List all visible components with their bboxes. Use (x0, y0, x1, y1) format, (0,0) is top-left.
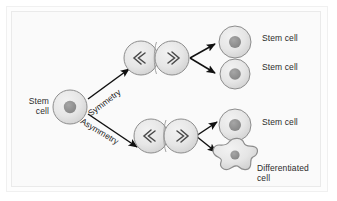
dividing-cell-asymmetric[interactable] (134, 119, 198, 153)
edge-sym-daughter-1 (190, 44, 215, 58)
edge-asym-daughter-1 (196, 122, 217, 136)
edge-sym-daughter-2 (190, 58, 215, 73)
nucleus-icon (229, 68, 241, 80)
daughter-stem-cell-2[interactable] (220, 59, 250, 89)
daughter-differentiated-cell[interactable] (213, 138, 257, 169)
nucleus-icon (229, 119, 241, 131)
nucleus-icon (229, 36, 241, 48)
nucleus-icon (230, 150, 239, 159)
daughter-stem-cell-1-label: Stem cell (262, 33, 298, 43)
daughter-stem-cell-3[interactable] (219, 109, 251, 141)
daughter-stem-cell-2-label: Stem cell (262, 62, 298, 72)
daughter-stem-cell-3-label: Stem cell (262, 117, 298, 127)
daughter-stem-cell-1[interactable] (219, 26, 251, 58)
stem-cell-division-figure: Stem cell Symmetry Asymmetry Stem cell S… (0, 0, 337, 201)
source-cell-label: Stem cell (15, 96, 49, 116)
differentiated-cell-label: Differentiated cell (257, 163, 319, 183)
nucleus-icon (64, 101, 76, 113)
dividing-cell-symmetric[interactable] (124, 41, 189, 75)
